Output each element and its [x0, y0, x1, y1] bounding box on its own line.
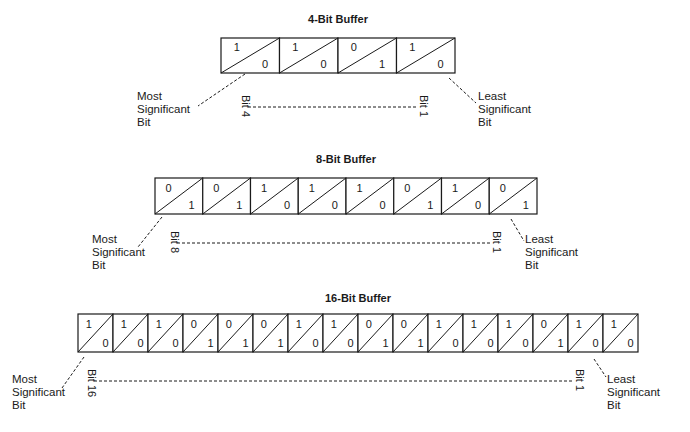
bit-cell: 10	[442, 178, 490, 214]
bit-cell: 01	[358, 314, 393, 352]
bit-cell: 10	[78, 314, 113, 352]
bottom-bit-value: 0	[488, 337, 494, 349]
bit-cell: 10	[498, 314, 533, 352]
bit-cell: 10	[603, 314, 638, 352]
bottom-bit-value: 0	[593, 337, 599, 349]
least-significant-bit-label: LeastSignificantBit	[478, 90, 532, 128]
top-bit-value: 0	[166, 182, 172, 194]
top-bit-value: 0	[261, 318, 267, 330]
top-bit-value: 1	[309, 182, 315, 194]
bit-low-label: Bit 1	[491, 231, 503, 253]
bit-buffer-diagram: 4-Bit Buffer 10100110MostSignificantBitL…	[0, 0, 690, 432]
msb-leader-line	[138, 217, 162, 247]
bottom-bit-value: 0	[313, 337, 319, 349]
bit-cell: 10	[568, 314, 603, 352]
top-bit-value: 0	[541, 318, 547, 330]
bit-cell: 01	[253, 314, 288, 352]
bottom-bit-value: 0	[262, 58, 268, 70]
buffer-title: 16-Bit Buffer	[325, 292, 392, 304]
bit-cell: 10	[288, 314, 323, 352]
top-bit-value: 0	[366, 318, 372, 330]
least-significant-bit-label: LeastSignificantBit	[607, 373, 661, 411]
bottom-bit-value: 0	[332, 199, 338, 211]
bottom-bit-value: 0	[523, 337, 529, 349]
bottom-bit-value: 0	[437, 58, 443, 70]
bit-cell: 10	[298, 178, 346, 214]
top-bit-value: 1	[436, 318, 442, 330]
bit-high-label: Bit 4	[240, 95, 252, 117]
bit-cell: 10	[346, 178, 394, 214]
top-bit-value: 1	[86, 318, 92, 330]
bottom-bit-value: 1	[208, 337, 214, 349]
top-bit-value: 0	[401, 318, 407, 330]
bit-cell: 01	[183, 314, 218, 352]
bit-low-label: Bit 1	[574, 369, 586, 391]
bottom-bit-value: 1	[278, 337, 284, 349]
top-bit-value: 0	[213, 182, 219, 194]
bottom-bit-value: 1	[236, 199, 242, 211]
top-bit-value: 1	[156, 318, 162, 330]
lsb-leader-line	[449, 78, 476, 103]
top-bit-value: 1	[506, 318, 512, 330]
bottom-bit-value: 0	[453, 337, 459, 349]
buffer-title: 4-Bit Buffer	[308, 13, 369, 25]
top-bit-value: 1	[357, 182, 363, 194]
bit-cell: 01	[393, 314, 428, 352]
bit-cell: 10	[323, 314, 358, 352]
bit-cell: 01	[218, 314, 253, 352]
top-bit-value: 1	[296, 318, 302, 330]
bit-cell: 01	[155, 178, 203, 214]
bottom-bit-value: 1	[379, 58, 385, 70]
top-bit-value: 1	[471, 318, 477, 330]
top-bit-value: 0	[404, 182, 410, 194]
eight-bit-buffer: 8-Bit Buffer 0101101010011001MostSignifi…	[92, 153, 579, 271]
bottom-bit-value: 1	[383, 337, 389, 349]
top-bit-value: 1	[576, 318, 582, 330]
bottom-bit-value: 1	[188, 199, 194, 211]
bottom-bit-value: 1	[523, 199, 529, 211]
most-significant-bit-label: MostSignificantBit	[137, 90, 191, 128]
bit-cell: 10	[428, 314, 463, 352]
buffer-title: 8-Bit Buffer	[316, 153, 377, 165]
bit-cell: 10	[463, 314, 498, 352]
bit-cell: 10	[148, 314, 183, 352]
top-bit-value: 1	[292, 41, 298, 53]
top-bit-value: 1	[409, 41, 415, 53]
msb-leader-line	[198, 74, 245, 106]
most-significant-bit-label: MostSignificantBit	[92, 233, 146, 271]
bottom-bit-value: 0	[138, 337, 144, 349]
bottom-bit-value: 0	[348, 337, 354, 349]
bottom-bit-value: 1	[418, 337, 424, 349]
bit-cell: 01	[533, 314, 568, 352]
bottom-bit-value: 0	[173, 337, 179, 349]
bottom-bit-value: 1	[243, 337, 249, 349]
bit-cell: 01	[203, 178, 251, 214]
bit-cell: 10	[113, 314, 148, 352]
bit-cell: 10	[221, 38, 280, 73]
sixteen-bit-buffer: 16-Bit Buffer 10101001010110100101101010…	[12, 292, 661, 411]
bit-cell: 10	[397, 38, 456, 73]
bottom-bit-value: 0	[628, 337, 634, 349]
bottom-bit-value: 1	[427, 199, 433, 211]
bit-cell: 10	[280, 38, 339, 73]
bit-high-label: Bit 8	[169, 231, 181, 253]
bottom-bit-value: 0	[475, 199, 481, 211]
top-bit-value: 1	[611, 318, 617, 330]
top-bit-value: 1	[121, 318, 127, 330]
bit-cell: 01	[338, 38, 397, 73]
top-bit-value: 1	[452, 182, 458, 194]
least-significant-bit-label: LeastSignificantBit	[525, 233, 579, 271]
top-bit-value: 0	[351, 41, 357, 53]
lsb-leader-line	[511, 219, 524, 241]
top-bit-value: 1	[261, 182, 267, 194]
four-bit-buffer: 4-Bit Buffer 10100110MostSignificantBitL…	[137, 13, 532, 128]
bottom-bit-value: 1	[558, 337, 564, 349]
top-bit-value: 0	[191, 318, 197, 330]
top-bit-value: 1	[234, 41, 240, 53]
top-bit-value: 0	[226, 318, 232, 330]
bottom-bit-value: 0	[379, 199, 385, 211]
bottom-bit-value: 0	[320, 58, 326, 70]
top-bit-value: 0	[500, 182, 506, 194]
bit-low-label: Bit 1	[418, 95, 430, 117]
bottom-bit-value: 0	[103, 337, 109, 349]
